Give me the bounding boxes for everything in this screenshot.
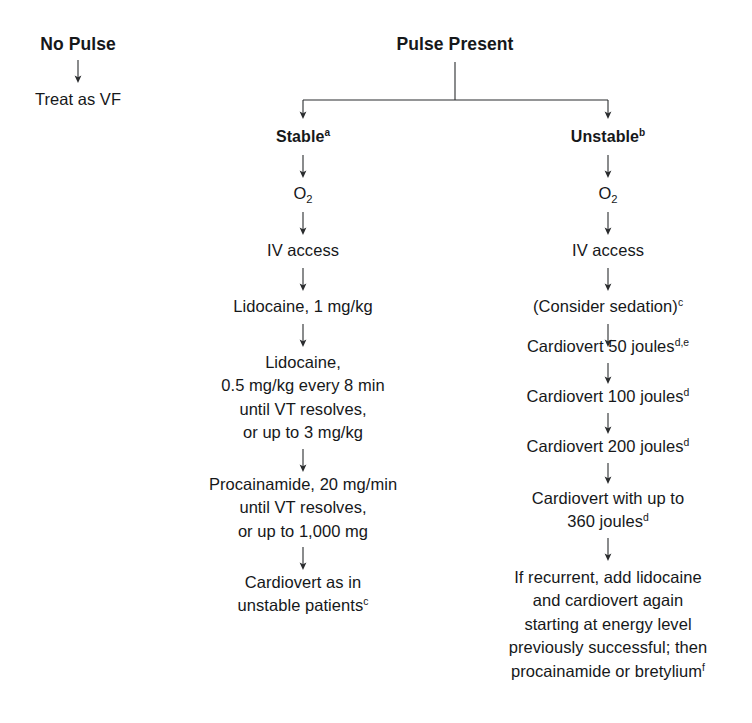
arrow-unstable-200-to-360 [602, 463, 615, 485]
arrow-stable-lidocaine-to-procainamide [297, 449, 310, 473]
footnote-marker-de: d,e [675, 337, 689, 348]
unstable-step-oxygen: O2 [598, 182, 617, 205]
branch-label-stable: Stablea [276, 126, 330, 149]
footnote-marker-a: a [325, 127, 331, 138]
arrow-stable-procainamide-to-cardiovert [297, 547, 310, 571]
footnote-marker-f: f [702, 661, 705, 672]
unstable-cardiovert-100-text: Cardiovert 100 joules [527, 387, 684, 405]
arrow-unstable-to-oxygen [602, 155, 615, 179]
stable-lidocaine-infusion-line-3: until VT resolves, [221, 398, 384, 421]
arrow-unstable-100-to-200 [602, 413, 615, 435]
footnote-marker-d-360: d [643, 512, 649, 523]
unstable-recurrent-line-5: procainamide or bretyliumf [509, 660, 708, 683]
arrow-stable-iv-to-lidocaine-bolus [297, 268, 310, 292]
no-pulse-title: No Pulse [40, 32, 116, 57]
branch-label-stable-text: Stable [276, 128, 325, 145]
unstable-step-cardiovert-360: Cardiovert with up to 360 joulesd [532, 487, 684, 534]
footnote-marker-c-unstable: c [678, 297, 683, 308]
unstable-step-cardiovert-100: Cardiovert 100 joulesd [527, 385, 690, 408]
stable-lidocaine-infusion-line-2: 0.5 mg/kg every 8 min [221, 374, 384, 397]
arrow-unstable-50-to-100 [602, 363, 615, 385]
unstable-cardiovert-200-text: Cardiovert 200 joules [527, 437, 684, 455]
unstable-step-iv-access: IV access [572, 239, 644, 262]
stable-procainamide-line-2: until VT resolves, [209, 496, 397, 519]
stable-procainamide-line-1: Procainamide, 20 mg/min [209, 473, 397, 496]
arrow-unstable-360-to-recurrent [602, 538, 615, 562]
stable-step-lidocaine-bolus: Lidocaine, 1 mg/kg [233, 295, 372, 318]
stable-step-oxygen: O2 [293, 182, 312, 205]
unstable-cardiovert-360-line-1: Cardiovert with up to [532, 487, 684, 510]
stable-cardiovert-line-1: Cardiovert as in [238, 571, 369, 594]
unstable-recurrent-line-2: and cardiovert again [509, 589, 708, 612]
arrow-unstable-iv-to-sedation [602, 268, 615, 292]
arrow-stable-oxygen-to-iv [297, 212, 310, 236]
unstable-step-recurrent: If recurrent, add lidocaine and cardiove… [509, 566, 708, 683]
unstable-step-cardiovert-200: Cardiovert 200 joulesd [527, 435, 690, 458]
stable-oxygen-subscript: 2 [306, 193, 312, 205]
arrow-unstable-oxygen-to-iv [602, 212, 615, 236]
stable-step-iv-access: IV access [267, 239, 339, 262]
arrow-no-pulse-to-vf [72, 60, 85, 84]
unstable-step-cardiovert-50: Cardiovert 50 joulesd,e [527, 335, 689, 358]
pulse-present-title: Pulse Present [396, 32, 513, 57]
arrow-stable-bolus-to-infusion [297, 324, 310, 348]
stable-lidocaine-infusion-line-1: Lidocaine, [221, 351, 384, 374]
stable-cardiovert-line-2-text: unstable patients [238, 596, 364, 614]
stable-step-procainamide: Procainamide, 20 mg/min until VT resolve… [209, 473, 397, 543]
unstable-cardiovert-360-line-2-text: 360 joules [567, 512, 643, 530]
branch-connector [296, 62, 616, 124]
unstable-recurrent-line-1: If recurrent, add lidocaine [509, 566, 708, 589]
unstable-cardiovert-50-text: Cardiovert 50 joules [527, 337, 675, 355]
unstable-oxygen-subscript: 2 [611, 193, 617, 205]
unstable-oxygen-symbol: O [598, 184, 611, 202]
stable-cardiovert-line-2: unstable patientsc [238, 594, 369, 617]
branch-label-unstable: Unstableb [571, 126, 646, 149]
stable-oxygen-symbol: O [293, 184, 306, 202]
branch-label-unstable-text: Unstable [571, 128, 639, 145]
unstable-recurrent-line-4: previously successful; then [509, 636, 708, 659]
unstable-cardiovert-360-line-2: 360 joulesd [532, 510, 684, 533]
stable-step-cardiovert: Cardiovert as in unstable patientsc [238, 571, 369, 618]
footnote-marker-c-stable: c [363, 596, 368, 607]
unstable-sedation-text: (Consider sedation) [533, 297, 678, 315]
stable-step-lidocaine-infusion: Lidocaine, 0.5 mg/kg every 8 min until V… [221, 351, 384, 445]
stable-procainamide-line-3: or up to 1,000 mg [209, 520, 397, 543]
footnote-marker-d-100: d [684, 387, 690, 398]
no-pulse-step-treat-as-vf: Treat as VF [35, 88, 121, 111]
footnote-marker-b: b [639, 127, 645, 138]
unstable-step-sedation: (Consider sedation)c [533, 295, 683, 318]
unstable-recurrent-line-5-text: procainamide or bretylium [511, 662, 702, 680]
unstable-recurrent-line-3: starting at energy level [509, 613, 708, 636]
stable-lidocaine-infusion-line-4: or up to 3 mg/kg [221, 421, 384, 444]
arrow-stable-to-oxygen [297, 155, 310, 179]
footnote-marker-d-200: d [684, 437, 690, 448]
